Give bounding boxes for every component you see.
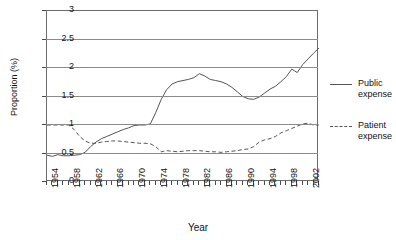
x-tick-mark [193, 181, 194, 185]
y-tick-mark [42, 124, 46, 125]
x-tick-label: 1994 [268, 168, 278, 188]
x-tick-mark [84, 181, 85, 185]
chart-legend: Public expense Patient expense [330, 78, 396, 162]
y-axis-title: Proportion (%) [9, 42, 19, 132]
legend-label-patient-line2: expense [358, 131, 396, 142]
legend-swatch-solid-icon [330, 84, 352, 85]
series-line-patient-expense [47, 123, 319, 152]
y-tick-mark [42, 10, 46, 11]
x-tick-mark [198, 181, 199, 185]
x-tick-mark [68, 181, 69, 185]
x-tick-label: 1982 [202, 168, 212, 188]
x-tick-label: 1990 [246, 168, 256, 188]
legend-label-patient-line1: Patient [358, 120, 396, 131]
series-lines [47, 11, 319, 182]
x-tick-mark [155, 181, 156, 185]
legend-item-patient: Patient expense [330, 120, 396, 142]
x-tick-mark [128, 181, 129, 185]
x-axis-title: Year [0, 222, 396, 233]
legend-item-public: Public expense [330, 78, 396, 100]
x-tick-label: 1986 [224, 168, 234, 188]
x-tick-label: 1962 [94, 168, 104, 188]
x-tick-mark [220, 181, 221, 185]
y-tick-label: 0.5 [61, 147, 74, 157]
x-tick-mark [149, 181, 150, 185]
x-tick-mark [46, 181, 47, 185]
legend-label-public-line2: expense [358, 89, 396, 100]
x-tick-mark [285, 181, 286, 185]
x-tick-label: 2002 [311, 168, 321, 188]
x-tick-label: 1954 [50, 168, 60, 188]
y-tick-mark [42, 39, 46, 40]
series-line-public-expense [47, 48, 319, 156]
x-tick-mark [258, 181, 259, 185]
y-tick-label: 3 [69, 4, 74, 14]
gridline [46, 96, 318, 97]
x-tick-mark [177, 181, 178, 185]
x-tick-label: 1998 [289, 168, 299, 188]
legend-label-patient: Patient expense [358, 120, 396, 142]
y-tick-label: 1 [69, 118, 74, 128]
legend-swatch-dashed-icon [330, 126, 352, 127]
x-tick-mark [242, 181, 243, 185]
x-tick-mark [307, 181, 308, 185]
legend-label-public-line1: Public [358, 78, 396, 89]
x-tick-mark [280, 181, 281, 185]
gridline [46, 67, 318, 68]
x-tick-mark [264, 181, 265, 185]
x-tick-label: 1966 [115, 168, 125, 188]
x-tick-mark [90, 181, 91, 185]
x-tick-label: 1970 [137, 168, 147, 188]
gridline [46, 39, 318, 40]
x-tick-mark [236, 181, 237, 185]
x-tick-mark [302, 181, 303, 185]
chart-figure: Proportion (%) 00.511.522.53 19541958196… [0, 0, 396, 240]
x-tick-mark [111, 181, 112, 185]
x-tick-label: 1978 [181, 168, 191, 188]
y-tick-label: 1.5 [61, 90, 74, 100]
y-tick-label: 2.5 [61, 33, 74, 43]
y-tick-label: 2 [69, 61, 74, 71]
y-tick-mark [42, 153, 46, 154]
x-tick-mark [215, 181, 216, 185]
x-tick-mark [106, 181, 107, 185]
y-tick-mark [42, 67, 46, 68]
y-tick-mark [42, 96, 46, 97]
x-tick-label: 1974 [159, 168, 169, 188]
x-tick-label: 1958 [72, 168, 82, 188]
x-tick-mark [171, 181, 172, 185]
gridline [46, 153, 318, 154]
gridline [46, 124, 318, 125]
x-tick-mark [133, 181, 134, 185]
legend-label-public: Public expense [358, 78, 396, 100]
x-tick-mark [62, 181, 63, 185]
